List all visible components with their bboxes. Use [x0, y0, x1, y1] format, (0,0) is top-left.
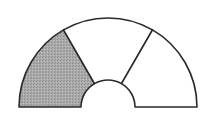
semi-annulus-diagram — [0, 0, 213, 124]
